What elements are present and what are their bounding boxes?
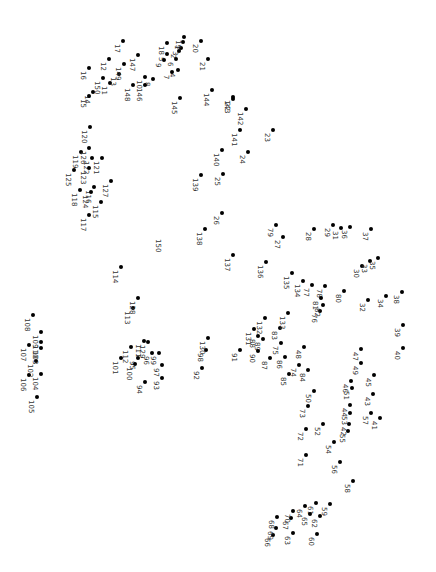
dot-12 [107, 57, 111, 61]
dot-4 [176, 68, 180, 72]
dot-10 [143, 75, 147, 79]
dot-104 [39, 372, 43, 376]
dot-label: 114 [111, 270, 118, 283]
dot-label: 141 [230, 133, 237, 146]
dot-46 [349, 379, 353, 383]
dot-20 [199, 39, 203, 43]
dot-97 [160, 363, 164, 367]
dot-label: 25 [213, 177, 220, 186]
dot-label: 40 [393, 351, 400, 360]
dot-label: 80 [334, 294, 341, 303]
dot-label: 121 [92, 161, 99, 174]
dot-130 [206, 336, 210, 340]
dot-label: 37 [361, 232, 368, 241]
dot-73 [306, 404, 310, 408]
dot-label: 140 [212, 153, 219, 166]
dot-label: 142 [236, 112, 243, 125]
dot-120 [88, 125, 92, 129]
dot-81 [319, 296, 323, 300]
dot-label: 51 [342, 391, 349, 400]
dot-79 [274, 223, 278, 227]
dot-38 [400, 290, 404, 294]
dot-90 [256, 349, 260, 353]
dot-78 [323, 284, 327, 288]
dot-label: 43 [363, 397, 370, 406]
stray-label: 150 [154, 239, 161, 252]
dot-149 [122, 62, 126, 66]
dot-143 [231, 95, 235, 99]
dot-123 [87, 166, 91, 170]
dot-137 [231, 253, 235, 257]
dot-label: 18 [157, 46, 164, 55]
dot-label: 92 [192, 371, 199, 380]
dot-label: 12 [99, 62, 106, 71]
dot-93 [160, 376, 164, 380]
dot-label: 135 [282, 276, 289, 289]
dot-label: 56 [330, 465, 337, 474]
dot-117 [87, 213, 91, 217]
dot-19 [182, 35, 186, 39]
dot-label: 147 [128, 58, 135, 71]
dot-54 [332, 440, 336, 444]
dot-label: 112 [121, 350, 128, 363]
dot-96 [150, 351, 154, 355]
dot-9 [162, 58, 166, 62]
dot-135 [290, 271, 294, 275]
dot-94 [143, 380, 147, 384]
dot-84 [306, 368, 310, 372]
dot-label: 35 [368, 261, 375, 270]
dot-label: 53 [340, 416, 347, 425]
dot-110 [39, 340, 43, 344]
dot-61 [314, 501, 318, 505]
dot-label: 139 [191, 178, 198, 191]
dot-label: 28 [304, 232, 311, 241]
dot-116 [92, 185, 96, 189]
dot-label: 32 [358, 303, 365, 312]
dot-50 [312, 389, 316, 393]
dot-118 [78, 188, 82, 192]
dot-label: 150 [93, 81, 100, 94]
dot-27 [281, 235, 285, 239]
dot-label: 124 [81, 195, 88, 208]
dot-label: 75 [271, 346, 278, 355]
dot-134 [301, 279, 305, 283]
dot-124 [89, 190, 93, 194]
dot-103 [39, 346, 43, 350]
dot-16 [87, 66, 91, 70]
dot-label: 39 [393, 328, 400, 337]
dot-label: 72 [296, 432, 303, 441]
dot-label: 125 [64, 173, 71, 186]
dot-label: 15 [79, 99, 86, 108]
dot-56 [338, 460, 342, 464]
dot-label: 19 [174, 40, 181, 49]
dot-label: 107 [19, 348, 26, 361]
dot-label: 17 [113, 44, 120, 53]
dot-label: 145 [170, 101, 177, 114]
dot-51 [350, 386, 354, 390]
dot-label: 106 [19, 378, 26, 391]
dot-68 [275, 515, 279, 519]
dot-label: 149 [114, 67, 121, 80]
dot-140 [220, 148, 224, 152]
dot-40 [401, 346, 405, 350]
dot-129 [146, 340, 150, 344]
dot-label: 91 [230, 353, 237, 362]
dot-label: 127 [101, 184, 108, 197]
dot-74 [297, 363, 301, 367]
dot-label: 90 [248, 354, 255, 363]
dot-label: 110 [31, 345, 38, 358]
dot-label: 63 [283, 536, 290, 545]
dot-49 [359, 361, 363, 365]
dot-label: 119 [71, 155, 78, 168]
dot-136 [264, 260, 268, 264]
dot-55 [346, 429, 350, 433]
dot-label: 84 [298, 373, 305, 382]
dot-label: 100 [125, 367, 132, 380]
dot-85 [287, 372, 291, 376]
dot-87 [268, 356, 272, 360]
dot-label: 87 [260, 361, 267, 370]
dot-label: 83 [270, 331, 277, 340]
dot-label: 133 [278, 316, 285, 329]
dot-label: 55 [338, 434, 345, 443]
dot-label: 118 [70, 193, 77, 206]
